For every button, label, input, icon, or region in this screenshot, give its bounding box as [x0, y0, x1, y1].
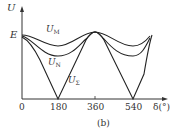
x-axis-label: δ(°) [153, 103, 170, 112]
figure-caption: (b) [97, 119, 110, 128]
curve-label-u-m: UM [46, 25, 60, 35]
y-axis-arrow-icon [20, 6, 24, 12]
curve-label-u-sigma: UΣ [68, 76, 80, 86]
y-axis-label: U [7, 3, 15, 13]
diagram-plot [0, 0, 181, 137]
x-tick-540: 540 [125, 103, 142, 112]
power-swing-voltage-diagram: U E UM UN UΣ 0 180 360 540 δ(°) (b) [0, 0, 181, 137]
curve-u-sigma [22, 32, 152, 99]
x-axis-arrow-icon [162, 97, 168, 101]
x-tick-180: 180 [50, 103, 67, 112]
x-tick-360: 360 [87, 103, 104, 112]
x-tick-0: 0 [19, 103, 25, 112]
curve-u-n [22, 32, 150, 56]
e-label: E [10, 30, 17, 40]
curve-label-u-n: UN [48, 58, 61, 68]
